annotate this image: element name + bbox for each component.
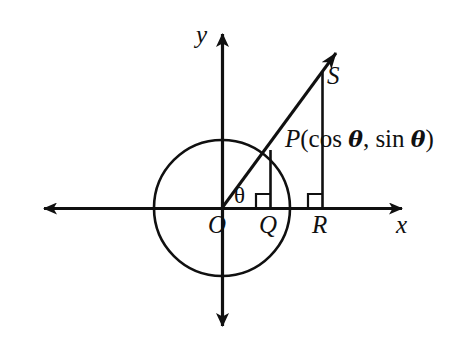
y-axis-label: y — [196, 22, 207, 47]
p-point-label-open: (cos — [300, 125, 348, 152]
origin-point-label: O — [208, 212, 226, 237]
right-angle-q-icon — [256, 194, 270, 208]
p-point-label-variable: P — [285, 125, 300, 152]
q-point-label: Q — [259, 212, 277, 237]
s-point-label: S — [327, 63, 340, 88]
theta-angle-label: θ — [234, 184, 245, 207]
x-axis-label: x — [396, 212, 407, 237]
p-point-label: P(cos θ, sin θ) — [285, 126, 434, 151]
r-point-label: R — [312, 212, 327, 237]
p-point-label-close: ) — [426, 125, 434, 152]
p-point-label-theta-x: θ — [348, 126, 363, 152]
unit-circle-figure: y x O Q R S θ P(cos θ, sin θ) — [0, 0, 456, 345]
p-point-label-theta-y: θ — [411, 126, 426, 152]
p-point-label-comma: , sin — [363, 125, 411, 152]
unit-circle-diagram — [0, 0, 456, 345]
right-angle-r-icon — [308, 194, 322, 208]
